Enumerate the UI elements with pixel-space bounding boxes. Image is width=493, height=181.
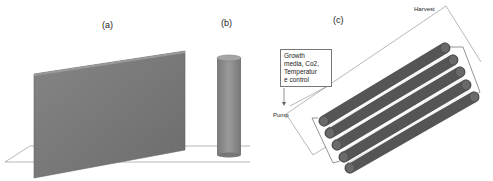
- pump-label: Pump: [273, 111, 289, 119]
- tube-array: [282, 6, 481, 173]
- growth-box-line-4: e control: [284, 76, 328, 84]
- harvest-label: Harvest: [414, 5, 435, 13]
- growth-box-line-1: Growth: [284, 52, 328, 60]
- growth-box-line-3: Temperatur: [284, 68, 328, 76]
- growth-box-line-2: media, Co2,: [284, 60, 328, 68]
- panel-label-a: (a): [102, 20, 113, 30]
- panel-label-c: (c): [333, 15, 344, 25]
- flat-panel-reactor: [34, 51, 185, 178]
- diagram-canvas: [0, 0, 493, 181]
- panel-label-b: (b): [221, 18, 232, 28]
- column-reactor: [217, 55, 241, 158]
- growth-control-box: Growth media, Co2, Temperatur e control: [280, 49, 332, 87]
